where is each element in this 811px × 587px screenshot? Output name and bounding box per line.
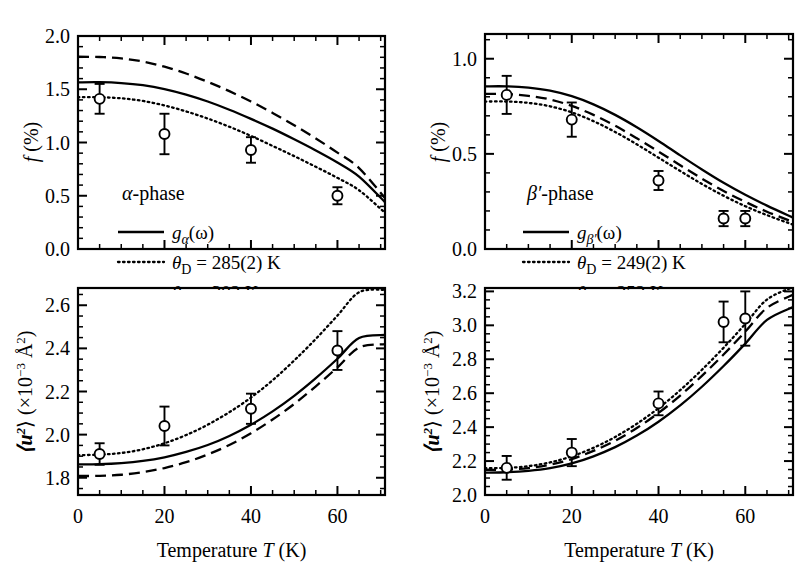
data-points xyxy=(502,291,751,479)
legend-label: gα(ω) xyxy=(172,222,214,247)
y-axis-title: f (%) xyxy=(427,122,450,163)
x-tick-label: 0 xyxy=(480,505,490,527)
plot-frame xyxy=(78,36,385,249)
data-point xyxy=(740,211,750,226)
axis-frame xyxy=(78,36,385,249)
x-tick-label: 40 xyxy=(241,505,261,527)
phase-label: α-phase xyxy=(122,182,185,205)
data-points xyxy=(95,331,343,465)
plot-bottom-left: 1.82.02.22.42.60204060⟨u2⟩ (×10−3 Å2)Tem… xyxy=(0,280,400,587)
legend-label: θD = 249(2) K xyxy=(577,252,686,277)
axis-ticks xyxy=(78,294,385,495)
data-point xyxy=(95,443,105,465)
data-point xyxy=(95,84,105,114)
y-tick-labels: 2.02.22.42.62.83.03.2 xyxy=(452,280,477,506)
series-curves xyxy=(78,290,385,476)
x-tick-label: 0 xyxy=(73,505,83,527)
data-point xyxy=(246,394,256,424)
data-point xyxy=(502,76,512,114)
plot-top-left: 0.00.51.01.52.0α-phasegα(ω)θD = 285(2) K… xyxy=(0,0,400,290)
y-tick-label: 2.4 xyxy=(452,416,477,438)
x-tick-label: 20 xyxy=(562,505,582,527)
svg-text:⟨u2⟩ (×10−3 Å2): ⟨u2⟩ (×10−3 Å2) xyxy=(420,330,444,453)
y-tick-label: 2.0 xyxy=(45,424,70,446)
panel-top-left: 0.00.51.01.52.0α-phasegα(ω)θD = 285(2) K… xyxy=(0,0,400,290)
y-tick-label: 2.0 xyxy=(45,25,70,47)
y-tick-label: 2.0 xyxy=(452,484,477,506)
data-point xyxy=(654,392,664,416)
y-tick-label: 2.2 xyxy=(45,381,70,403)
plot-top-right: 0.00.51.0β′-phasegβ′(ω)θD = 249(2) KθD =… xyxy=(405,0,811,290)
x-tick-labels: 0204060 xyxy=(480,505,755,527)
y-tick-label: 2.8 xyxy=(452,348,477,370)
panel-top-right: 0.00.51.0β′-phasegβ′(ω)θD = 249(2) KθD =… xyxy=(405,0,811,290)
svg-text:f (%): f (%) xyxy=(427,122,450,163)
x-tick-label: 20 xyxy=(154,505,174,527)
y-tick-label: 2.4 xyxy=(45,337,70,359)
axis-ticks xyxy=(78,36,385,249)
y-axis-title: f (%) xyxy=(20,122,43,163)
y-tick-label: 0.5 xyxy=(45,185,70,207)
series-curve-dashed xyxy=(78,344,385,476)
y-tick-label: 1.0 xyxy=(45,132,70,154)
y-axis-title: ⟨u2⟩ (×10−3 Å2) xyxy=(13,330,37,453)
y-tick-labels: 0.00.51.01.52.0 xyxy=(45,25,70,260)
data-point xyxy=(654,171,664,190)
y-tick-label: 1.5 xyxy=(45,78,70,100)
series-curve-dotted xyxy=(78,290,385,456)
panel-bottom-left: 1.82.02.22.42.60204060⟨u2⟩ (×10−3 Å2)Tem… xyxy=(0,280,400,587)
y-axis-title: ⟨u2⟩ (×10−3 Å2) xyxy=(420,330,444,453)
plot-bottom-right: 2.02.22.42.62.83.03.20204060⟨u2⟩ (×10−3 … xyxy=(405,280,811,587)
legend-label: θD = 285(2) K xyxy=(172,252,281,277)
y-tick-label: 0.0 xyxy=(452,238,477,260)
data-point xyxy=(246,137,256,163)
y-tick-label: 0.0 xyxy=(45,238,70,260)
y-tick-labels: 0.00.51.0 xyxy=(452,48,477,260)
y-tick-label: 1.8 xyxy=(45,467,70,489)
y-tick-label: 1.0 xyxy=(452,48,477,70)
x-tick-label: 60 xyxy=(735,505,755,527)
data-point xyxy=(332,187,342,204)
data-point xyxy=(740,291,750,345)
panel-bottom-right: 2.02.22.42.62.83.03.20204060⟨u2⟩ (×10−3 … xyxy=(405,280,811,587)
x-tick-label: 40 xyxy=(649,505,669,527)
svg-text:⟨u2⟩ (×10−3 Å2): ⟨u2⟩ (×10−3 Å2) xyxy=(13,330,37,453)
svg-text:f (%): f (%) xyxy=(20,122,43,163)
y-tick-labels: 1.82.02.22.42.6 xyxy=(45,294,70,489)
phase-label: β′-phase xyxy=(526,182,594,205)
x-tick-labels: 0204060 xyxy=(73,505,347,527)
y-tick-label: 3.2 xyxy=(452,280,477,302)
y-tick-label: 3.0 xyxy=(452,314,477,336)
y-tick-label: 2.6 xyxy=(45,294,70,316)
data-point xyxy=(719,211,729,226)
data-point xyxy=(159,407,169,446)
data-point xyxy=(159,114,169,154)
y-tick-label: 2.2 xyxy=(452,450,477,472)
series-curve-solid xyxy=(485,307,793,473)
x-axis-title: Temperature T (K) xyxy=(564,539,714,562)
legend-label: gβ′(ω) xyxy=(577,222,622,247)
figure-root: 0.00.51.01.52.0α-phasegα(ω)θD = 285(2) K… xyxy=(0,0,811,587)
series-curve-dotted xyxy=(485,101,793,224)
data-point xyxy=(719,302,729,343)
y-tick-label: 2.6 xyxy=(452,382,477,404)
x-tick-label: 60 xyxy=(327,505,347,527)
x-axis-title: Temperature T (K) xyxy=(157,539,307,562)
data-point xyxy=(502,456,512,480)
y-tick-label: 0.5 xyxy=(452,143,477,165)
